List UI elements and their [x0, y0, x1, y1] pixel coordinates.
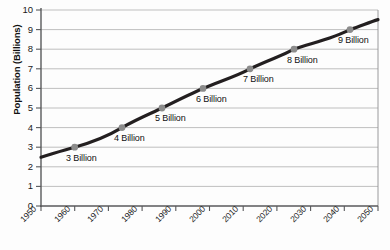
- data-label-7-billion: 7 Billion: [243, 74, 274, 84]
- y-tick-label-1: 1: [17, 181, 33, 191]
- data-point-marker: [347, 26, 354, 33]
- y-tick-label-2: 2: [17, 162, 33, 172]
- y-tick-label-9: 9: [17, 25, 33, 35]
- y-tick-label-7: 7: [17, 64, 33, 74]
- data-point-marker: [119, 124, 126, 131]
- data-label-8-billion: 8 Billion: [287, 55, 318, 65]
- y-tick-label-4: 4: [17, 123, 33, 133]
- y-tick-label-10: 10: [17, 5, 33, 15]
- data-point-marker: [71, 144, 78, 151]
- population-growth-chart: Population (Billions) 10 9 8 7 6 5 4 3 2…: [0, 0, 390, 250]
- data-label-4-billion: 4 Billion: [114, 133, 145, 143]
- y-tick-label-5: 5: [17, 103, 33, 113]
- data-point-marker: [291, 46, 298, 53]
- data-label-9-billion: 9 Billion: [338, 35, 369, 45]
- y-tick-label-3: 3: [17, 142, 33, 152]
- y-axis-ticks: [36, 10, 41, 206]
- y-tick-label-6: 6: [17, 83, 33, 93]
- data-label-5-billion: 5 Billion: [155, 113, 186, 123]
- y-tick-label-8: 8: [17, 44, 33, 54]
- data-label-6-billion: 6 Billion: [196, 94, 227, 104]
- data-point-marker: [247, 65, 254, 72]
- data-label-3-billion: 3 Billion: [66, 153, 97, 163]
- data-point-marker: [159, 105, 166, 112]
- data-point-marker: [200, 85, 207, 92]
